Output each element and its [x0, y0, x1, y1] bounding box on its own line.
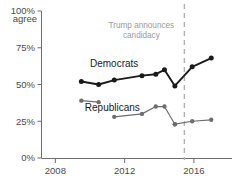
y-tick-label: 50% — [16, 79, 36, 90]
x-tick-label: 2012 — [114, 165, 135, 176]
chart-container: 0%25%50%75%100% agree 200820122016 Trump… — [0, 0, 238, 184]
y-tick-label: 75% — [16, 42, 36, 53]
data-point — [140, 112, 144, 116]
data-point — [79, 98, 83, 102]
x-tick-label: 2016 — [183, 165, 204, 176]
data-point — [79, 79, 84, 84]
data-point — [173, 122, 177, 126]
data-point — [154, 104, 158, 108]
data-point — [172, 83, 177, 88]
data-point — [209, 118, 213, 122]
series-label-republicans: Republicans — [85, 102, 140, 113]
y-axis-unit-label: agree — [13, 13, 37, 24]
y-tick-label: 0% — [21, 152, 35, 163]
data-point — [153, 72, 158, 77]
data-point — [162, 67, 167, 72]
x-tick-label: 2008 — [45, 165, 66, 176]
data-point — [139, 73, 144, 78]
data-point — [162, 104, 166, 108]
data-point — [209, 56, 214, 61]
annotation-text-line2: candidacy — [123, 31, 161, 40]
y-axis-tick-labels: 0%25%50%75%100% — [11, 5, 36, 163]
y-axis-ticks — [38, 11, 42, 158]
annotation-text-line1: Trump announces — [109, 21, 175, 30]
data-point — [96, 82, 101, 87]
line-chart: 0%25%50%75%100% agree 200820122016 Trump… — [0, 0, 238, 184]
data-point — [190, 64, 195, 69]
y-tick-label: 25% — [16, 116, 36, 127]
data-point — [190, 119, 194, 123]
data-point — [112, 115, 116, 119]
x-axis-ticks — [55, 159, 194, 164]
series-label-democrats: Democrats — [90, 58, 138, 69]
x-axis-tick-labels: 200820122016 — [45, 165, 205, 176]
data-point — [112, 78, 117, 83]
